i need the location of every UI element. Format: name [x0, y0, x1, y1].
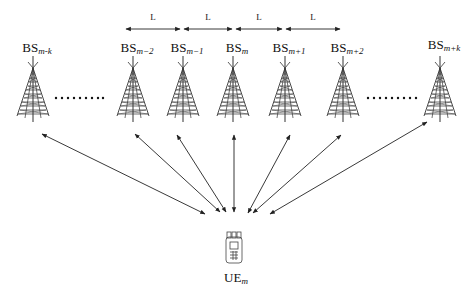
- spacing-label: L: [150, 12, 156, 22]
- link-arrows: [42, 122, 427, 214]
- spacing-label: L: [205, 12, 211, 22]
- tower-icon-m-2: [117, 56, 149, 122]
- tower-icon-m+k: [424, 56, 456, 122]
- ue-label: UEm: [224, 270, 248, 286]
- bs-label-m: BSm: [226, 40, 248, 56]
- spacing-label: L: [310, 12, 316, 22]
- spacing-label: L: [256, 12, 262, 22]
- tower-icon-m-1: [167, 56, 199, 122]
- bs-label-m-k: BSm-k: [22, 40, 51, 56]
- bs-label-m-1: BSm−1: [171, 40, 204, 56]
- bs-label-m+1: BSm+1: [273, 40, 306, 56]
- tower-icon-m+2: [327, 56, 359, 122]
- bs-label-m-2: BSm−2: [121, 40, 154, 56]
- tower-icon-m-k: [17, 56, 49, 122]
- phone-icon: [226, 232, 242, 263]
- tower-icons: [17, 56, 456, 122]
- tower-icon-m+1: [269, 56, 301, 122]
- bs-label-m+k: BSm+k: [428, 37, 460, 53]
- tower-icon-m: [217, 56, 249, 122]
- bs-label-m+2: BSm+2: [331, 40, 364, 56]
